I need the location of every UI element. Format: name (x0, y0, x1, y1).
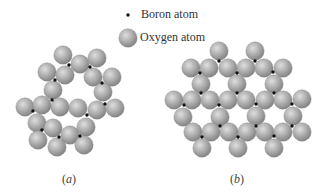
boron-atom-icon (218, 124, 221, 127)
oxygen-atom-icon (238, 123, 256, 141)
oxygen-atom-icon (56, 66, 74, 84)
oxygen-atom-icon (200, 59, 218, 77)
oxygen-atom-icon (183, 91, 201, 109)
legend-oxygen-label: Oxygen atom (140, 30, 205, 45)
structure-a-ring (16, 46, 124, 156)
boron-atom-icon (290, 124, 293, 127)
boron-atom-icon (78, 134, 81, 137)
boron-atom-icon (290, 102, 293, 105)
boron-atom-icon (199, 91, 202, 94)
boron-atom-icon (53, 78, 56, 81)
oxygen-atom-icon (184, 123, 202, 141)
oxygen-atom-icon (274, 123, 292, 141)
boron-atom-icon (40, 128, 43, 131)
oxygen-atom-icon (229, 139, 247, 157)
boron-atom-icon (85, 113, 88, 116)
boron-atom-icon (57, 135, 60, 138)
oxygen-atom-icon (201, 91, 219, 109)
boron-atom-icon (254, 124, 257, 127)
oxygen-atom-icon (77, 118, 95, 136)
boron-atom-icon (182, 103, 185, 106)
oxygen-atom-icon (94, 83, 112, 101)
oxygen-atom-icon (33, 96, 51, 114)
oxygen-atom-icon (284, 107, 302, 125)
boron-atom-icon (254, 102, 257, 105)
oxygen-atom-icon (54, 46, 72, 64)
boron-atom-icon (217, 103, 220, 106)
panel-label-a: (a) (62, 172, 76, 187)
boron-atom-icon (100, 81, 103, 84)
panel-label-a-close: ) (72, 172, 76, 186)
boron-atom-icon (103, 102, 106, 105)
oxygen-atom-icon (255, 59, 273, 77)
boron-atom-icon (67, 63, 70, 66)
oxygen-atom-icon (16, 98, 34, 116)
panel-label-b-close: ) (240, 172, 244, 186)
oxygen-atom-icon (265, 139, 283, 157)
structure-b-sheet (165, 42, 311, 157)
legend-oxygen-icon (119, 29, 137, 47)
oxygen-atom-icon (69, 99, 87, 117)
oxygen-atom-icon (237, 91, 255, 109)
oxygen-atom-icon (247, 107, 265, 125)
oxygen-atom-icon (106, 99, 124, 117)
oxygen-atom-icon (210, 42, 228, 60)
oxygen-atom-icon (48, 138, 66, 156)
oxygen-atom-icon (38, 63, 56, 81)
oxygen-atom-icon (293, 90, 311, 108)
oxygen-atom-icon (29, 131, 47, 149)
boron-atom-icon (198, 71, 201, 74)
oxygen-atom-icon (228, 75, 246, 93)
oxygen-atom-icon (237, 59, 255, 77)
legend-boron-icon (126, 13, 129, 16)
oxygen-atom-icon (256, 123, 274, 141)
boron-atom-icon (271, 70, 274, 73)
boron-atom-icon (200, 135, 203, 138)
oxygen-atom-icon (44, 119, 62, 137)
boron-atom-icon (272, 134, 275, 137)
boron-atom-icon (236, 135, 239, 138)
boron-atom-icon (217, 59, 220, 62)
boron-atom-icon (235, 71, 238, 74)
oxygen-atom-icon (265, 75, 283, 93)
oxygen-atom-icon (75, 136, 93, 154)
oxygen-atom-icon (219, 59, 237, 77)
oxygen-atom-icon (274, 91, 292, 109)
oxygen-atom-icon (220, 123, 238, 141)
oxygen-atom-icon (256, 91, 274, 109)
oxygen-atom-icon (219, 91, 237, 109)
legend-icons (119, 13, 137, 47)
boron-atom-icon (272, 91, 275, 94)
oxygen-atom-icon (88, 49, 106, 67)
panel-label-b: (b) (230, 172, 244, 187)
oxygen-atom-icon (293, 123, 311, 141)
oxygen-atom-icon (246, 42, 264, 60)
boron-atom-icon (88, 65, 91, 68)
oxygen-atom-icon (274, 59, 292, 77)
boron-atom-icon (253, 59, 256, 62)
oxygen-atom-icon (44, 81, 62, 99)
oxygen-atom-icon (193, 139, 211, 157)
legend-boron-label: Boron atom (141, 7, 198, 22)
oxygen-atom-icon (182, 59, 200, 77)
boron-atom-icon (235, 91, 238, 94)
boron-atom-icon (31, 109, 34, 112)
oxygen-atom-icon (202, 123, 220, 141)
boron-atom-icon (50, 98, 53, 101)
oxygen-atom-icon (165, 91, 183, 109)
oxygen-atom-icon (192, 75, 210, 93)
